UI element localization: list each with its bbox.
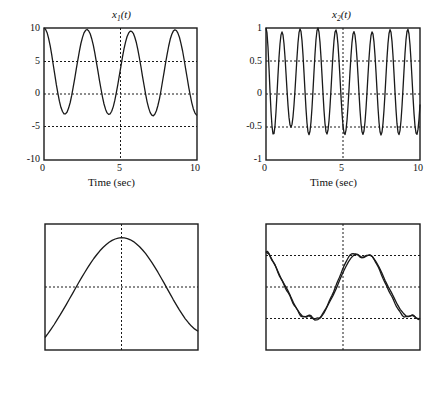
ytick-x2-0: -1 <box>228 153 262 164</box>
xtick-x2-2: 10 <box>413 162 423 173</box>
panel-x4: x4(t) 20 10 0 -10 -20 0 5 10 Time (sec) <box>224 197 448 393</box>
xtick-x2-1: 5 <box>339 162 344 173</box>
ytick-x2-3: 0.5 <box>228 55 262 66</box>
grid-lines-x3 <box>45 224 198 350</box>
ytick-x1-4: 10 <box>6 22 40 33</box>
xlabel-x1: Time (sec) <box>88 176 135 188</box>
ytick-x1-2: 0 <box>6 87 40 98</box>
ytick-x2-2: 0 <box>228 87 262 98</box>
xtick-x1-2: 10 <box>190 162 200 173</box>
plot-x3 <box>0 197 224 393</box>
ytick-x1-3: 5 <box>6 55 40 66</box>
panel-title-x2: x2(t) <box>332 8 351 23</box>
ytick-x1-0: -10 <box>6 153 40 164</box>
plot-x4 <box>224 197 448 393</box>
xlabel-x2: Time (sec) <box>310 176 357 188</box>
panel-x3: x3(t) 0.5 0 -0.5 0 5 10 Time (sec) <box>0 197 224 393</box>
xtick-x1-1: 5 <box>117 162 122 173</box>
grid-lines-x1 <box>44 28 197 160</box>
xtick-x1-0: 0 <box>40 162 45 173</box>
ytick-x2-4: 1 <box>228 22 262 33</box>
grid-lines-x2 <box>266 28 420 160</box>
ytick-x2-1: -0.5 <box>228 120 262 131</box>
grid-lines-x4 <box>266 224 420 350</box>
figure-grid: x1(t) 10 5 0 -5 -10 0 5 10 Time (sec) x2… <box>0 0 448 393</box>
panel-x1: x1(t) 10 5 0 -5 -10 0 5 10 Time (sec) <box>0 0 224 197</box>
ytick-x1-1: -5 <box>6 120 40 131</box>
panel-title-x1: x1(t) <box>112 8 131 23</box>
xtick-x2-0: 0 <box>262 162 267 173</box>
panel-x2: x2(t) 1 0.5 0 -0.5 -1 0 5 10 Time (sec) <box>224 0 448 197</box>
